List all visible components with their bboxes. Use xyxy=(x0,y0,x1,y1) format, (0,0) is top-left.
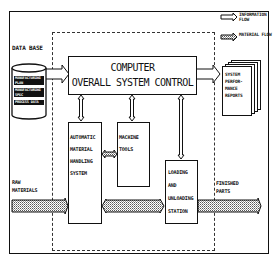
finished-parts-line: FINISHED xyxy=(216,179,238,187)
reports-label-line: MANCE xyxy=(225,85,249,92)
amhs-label-line: AUTOMATIC xyxy=(70,131,100,143)
computer-control-box: COMPUTER OVERALL SYSTEM CONTROL xyxy=(68,56,197,95)
amhs-label-line: SYSTEM xyxy=(70,167,100,179)
finished-parts-label: FINISHED PARTS xyxy=(216,179,238,195)
loading-label-line: UNLOADING xyxy=(168,192,195,205)
reports-label-line: PERFOR- xyxy=(225,78,249,85)
computer-machine-tools-arrow xyxy=(129,95,135,121)
loading-label-line: AND xyxy=(168,179,195,192)
computer-amhs-arrow xyxy=(78,95,84,121)
database-item: MANUFACTURING PLAN xyxy=(14,76,44,85)
computer-to-reports-arrow xyxy=(196,65,220,83)
database-item: MANUFACTURING SPEC xyxy=(14,88,44,97)
machine-tools-box: MACHINE TOOLS xyxy=(117,122,150,187)
amhs-machine-tools-material-arrow xyxy=(102,150,117,158)
database-items: MANUFACTURING PLAN MANUFACTURING SPEC PR… xyxy=(14,76,44,105)
raw-materials-arrow xyxy=(12,198,68,214)
reports-label-line: SYSTEM xyxy=(225,71,249,78)
material-handling-system-box: AUTOMATIC MATERIAL HANDLING SYSTEM xyxy=(68,122,102,224)
raw-materials-line: MATERIALS xyxy=(12,186,37,194)
computer-title: COMPUTER xyxy=(69,62,196,74)
finished-parts-arrow xyxy=(198,198,261,214)
loading-unloading-station-box: LOADING AND UNLOADING STATION xyxy=(165,160,198,224)
amhs-label-line: MATERIAL xyxy=(70,143,100,155)
legend-material-flow-label: MATERIAL FLOW xyxy=(239,32,273,37)
loading-label-line: LOADING xyxy=(168,166,195,179)
machine-tools-label-line: MACHINE xyxy=(119,131,148,143)
computer-subtitle: OVERALL SYSTEM CONTROL xyxy=(69,77,196,89)
amhs-loading-material-arrow xyxy=(102,199,164,213)
reports-label-line: REPORTS xyxy=(225,92,249,99)
system-performance-reports: SYSTEM PERFOR- MANCE REPORTS xyxy=(222,60,262,116)
computer-loading-arrow xyxy=(178,95,184,159)
database-title: DATA BASE xyxy=(12,43,43,52)
amhs-label-line: HANDLING xyxy=(70,155,100,167)
legend-information-flow-label: INFORMATION FLOW xyxy=(239,12,273,22)
loading-label-line: STATION xyxy=(168,205,195,218)
legend-information-arrow-icon xyxy=(221,13,237,21)
raw-materials-line: RAW xyxy=(12,178,37,186)
finished-parts-line: PARTS xyxy=(216,187,238,195)
machine-tools-label-line: TOOLS xyxy=(119,143,148,155)
raw-materials-label: RAW MATERIALS xyxy=(12,178,37,194)
database-item: PROCESS DATA xyxy=(14,100,44,105)
legend-material-arrow-icon xyxy=(221,33,237,41)
database-to-computer-arrow xyxy=(45,65,69,83)
